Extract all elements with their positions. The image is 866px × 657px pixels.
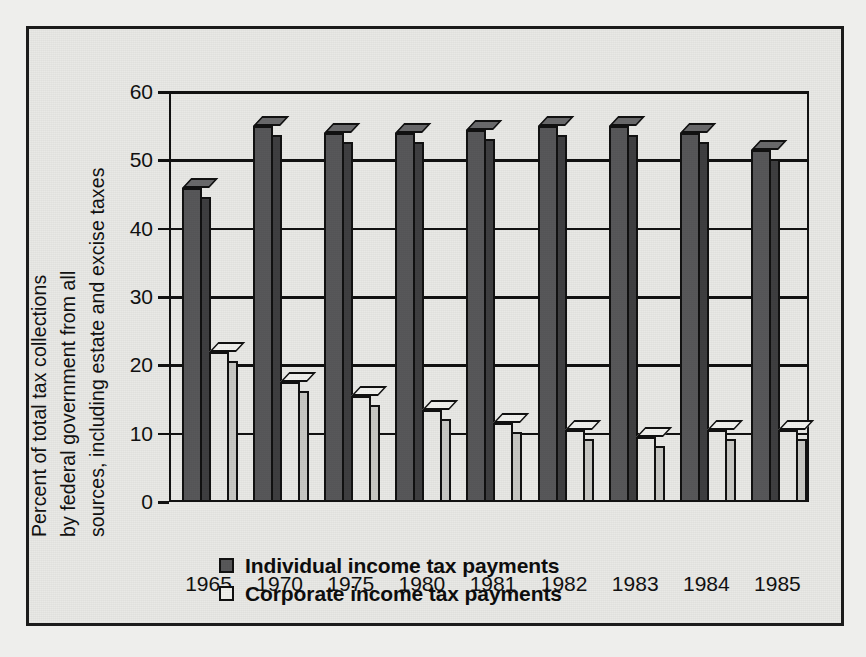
legend-item-individual: Individual income tax payments [219,553,562,578]
legend-item-corporate: Corporate income tax payments [219,581,562,606]
bar-top [182,178,218,188]
legend-swatch-light [219,586,234,601]
bar-group-1984 [667,92,738,502]
bar-face [466,130,486,502]
bar-corporate-1980 [422,410,442,502]
bar-group-1975 [311,92,382,502]
y-tick-10 [158,433,169,436]
y-tick-60 [158,91,169,94]
bar-group-1980 [382,92,453,502]
bar-individual-1983 [609,126,629,502]
bar-individual-1981 [466,130,486,502]
y-axis-label-line-2: by federal government from all [57,271,80,537]
bar-corporate-1981 [493,423,513,502]
bar-top [778,420,814,430]
y-tick-label-50: 50 [130,148,153,172]
bar-top [751,140,787,150]
y-tick-20 [158,364,169,367]
bar-corporate-1984 [707,430,727,502]
bar-face [538,126,558,502]
bar-side [371,405,380,502]
bar-top [609,116,645,126]
x-tick-label-1984: 1984 [683,572,730,596]
bar-top [253,116,289,126]
y-tick-30 [158,296,169,299]
y-tick-label-60: 60 [130,80,153,104]
bar-face [253,126,273,502]
bar-group-1981 [453,92,524,502]
bar-side [727,439,736,502]
bar-face [778,430,798,502]
bar-face [395,133,415,502]
y-tick-0 [158,501,169,504]
y-tick-label-30: 30 [130,285,153,309]
x-tick-label-1985: 1985 [754,572,801,596]
y-tick-label-20: 20 [130,353,153,377]
bar-side [798,439,807,502]
bar-corporate-1970 [280,382,300,502]
bar-corporate-1982 [565,430,585,502]
bar-face [209,352,229,502]
bar-face [751,150,771,502]
bar-face [565,430,585,502]
bar-group-1965 [169,92,240,502]
bar-individual-1985 [751,150,771,502]
bar-face [680,133,700,502]
plot-area: 0102030405060 19651970197519801981198219… [169,92,809,502]
bar-individual-1984 [680,133,700,502]
legend-swatch-dark [219,558,234,573]
bar-face [609,126,629,502]
bar-top [466,120,502,130]
bar-face [636,437,656,502]
bar-corporate-1975 [351,396,371,502]
bar-corporate-1983 [636,437,656,502]
x-tick-label-1983: 1983 [612,572,659,596]
bar-corporate-1965 [209,352,229,502]
bar-face [422,410,442,502]
bar-top [324,123,360,133]
y-tick-label-40: 40 [130,217,153,241]
bar-group-1985 [738,92,809,502]
bar-corporate-1985 [778,430,798,502]
legend-label: Individual income tax payments [245,554,559,578]
bar-face [351,396,371,502]
bar-side [585,439,594,502]
bar-side [229,361,238,502]
y-tick-label-0: 0 [141,490,153,514]
y-axis-label-line-3: sources, including estate and excise tax… [86,168,109,538]
bar-individual-1980 [395,133,415,502]
bar-face [324,133,344,502]
bar-face [707,430,727,502]
bar-group-1970 [240,92,311,502]
bar-top [395,123,431,133]
y-tick-40 [158,228,169,231]
figure-frame: Percent of total tax collections by fede… [26,26,844,626]
y-axis-label-line-1: Percent of total tax collections [28,275,51,537]
bar-group-1982 [525,92,596,502]
legend-label: Corporate income tax payments [245,582,562,606]
bar-individual-1982 [538,126,558,502]
bar-individual-1965 [182,188,202,502]
bar-top [680,123,716,133]
y-tick-label-10: 10 [130,422,153,446]
y-tick-50 [158,159,169,162]
bar-individual-1975 [324,133,344,502]
bar-group-1983 [596,92,667,502]
bar-individual-1970 [253,126,273,502]
bar-face [182,188,202,502]
bar-side [656,446,665,502]
bar-face [280,382,300,502]
bar-side [300,391,309,502]
bar-face [493,423,513,502]
bar-top [538,116,574,126]
bar-side [513,432,522,502]
chart-legend: Individual income tax paymentsCorporate … [219,553,562,609]
scan-background: Percent of total tax collections by fede… [0,0,866,657]
bar-side [442,419,451,502]
